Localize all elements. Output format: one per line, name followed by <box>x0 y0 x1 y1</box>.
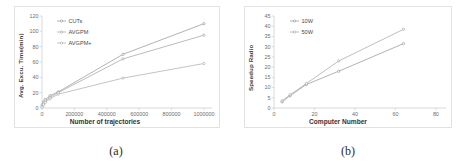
y-tick-label: 30 <box>264 44 270 50</box>
data-point-marker <box>305 82 307 84</box>
data-point-marker <box>122 77 124 79</box>
data-point-marker <box>44 101 46 103</box>
y-tick-label: 40 <box>32 74 38 80</box>
data-point-marker <box>122 53 124 55</box>
data-point-marker <box>338 60 340 62</box>
legend-swatch-marker <box>60 31 62 33</box>
figure-caption-b: (b) <box>232 144 464 159</box>
line-chart-b: 05101520253035404502040608010W50W <box>232 0 464 135</box>
y-tick-label: 120 <box>29 13 38 19</box>
legend-swatch-marker <box>293 31 295 33</box>
figure-panel-b: Speedup Radio Computer Number 0510152025… <box>232 0 464 163</box>
legend-swatch-marker <box>60 20 62 22</box>
x-tick-label: 40 <box>352 111 358 117</box>
line-chart-a: 0204060801001200200000400000600000800000… <box>0 0 232 135</box>
data-point-marker <box>402 28 404 30</box>
legend-label: AVGPM+ <box>69 40 92 46</box>
y-tick-label: 0 <box>267 105 270 111</box>
data-point-marker <box>203 23 205 25</box>
x-tick-label: 1000000 <box>193 111 214 117</box>
data-point-marker <box>122 58 124 60</box>
figure-row: Avg. Excu. Time(min) Number of trajector… <box>0 0 464 163</box>
y-tick-label: 35 <box>264 33 270 39</box>
x-tick-label: 800000 <box>163 111 181 117</box>
data-point-marker <box>57 93 59 95</box>
y-tick-label: 40 <box>264 23 270 29</box>
legend-swatch-marker <box>60 42 62 44</box>
series-line <box>42 24 204 105</box>
y-tick-label: 60 <box>32 59 38 65</box>
y-tick-label: 20 <box>32 90 38 96</box>
x-tick-label: 0 <box>273 111 276 117</box>
data-point-marker <box>289 94 291 96</box>
y-tick-label: 20 <box>264 64 270 70</box>
data-point-marker <box>42 104 44 106</box>
x-tick-label: 80 <box>433 111 439 117</box>
x-tick-label: 200000 <box>65 111 83 117</box>
x-tick-label: 400000 <box>98 111 116 117</box>
series-line <box>42 35 204 106</box>
legend-label: 10W <box>302 18 314 24</box>
legend-swatch-marker <box>293 20 295 22</box>
y-tick-label: 25 <box>264 54 270 60</box>
figure-panel-a: Avg. Excu. Time(min) Number of trajector… <box>0 0 232 163</box>
legend-label: 50W <box>302 29 314 35</box>
legend-label: AVGPM <box>69 29 89 35</box>
series-line <box>282 29 403 101</box>
y-tick-label: 80 <box>32 44 38 50</box>
y-tick-label: 5 <box>267 95 270 101</box>
x-tick-label: 600000 <box>130 111 148 117</box>
x-tick-label: 0 <box>41 111 44 117</box>
x-tick-label: 60 <box>392 111 398 117</box>
series-line <box>282 44 403 102</box>
y-tick-label: 45 <box>264 13 270 19</box>
figure-caption-a: (a) <box>0 144 232 159</box>
data-point-marker <box>402 42 404 44</box>
data-point-marker <box>203 34 205 36</box>
data-point-marker <box>338 70 340 72</box>
y-tick-label: 10 <box>264 84 270 90</box>
data-point-marker <box>281 100 283 102</box>
y-tick-label: 100 <box>29 28 38 34</box>
series-line <box>42 64 204 108</box>
y-tick-label: 0 <box>35 105 38 111</box>
x-tick-label: 20 <box>311 111 317 117</box>
y-tick-label: 15 <box>264 74 270 80</box>
legend-label: CUTs <box>69 18 83 24</box>
data-point-marker <box>203 62 205 64</box>
data-point-marker <box>41 106 43 108</box>
data-point-marker <box>49 98 51 100</box>
